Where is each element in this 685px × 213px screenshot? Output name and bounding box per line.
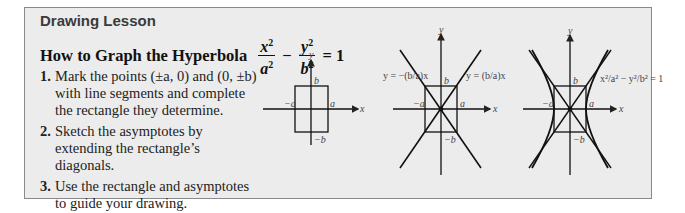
fig1-b-label: b (314, 75, 319, 86)
fig3-y-label: y (567, 25, 573, 36)
fig2-b-label: b (444, 75, 449, 86)
figure-hyperbola (523, 35, 616, 175)
fig2-x-label: x (492, 103, 498, 114)
fig3-a-label: a (589, 98, 594, 109)
fig2-neg-a-label: −a (413, 98, 425, 109)
graph-figures: y x b −b −a a y x b −b −a a y = −(b/a)x … (0, 0, 685, 213)
fig1-x-label: x (359, 103, 365, 114)
fig3-x-label: x (618, 103, 624, 114)
fig1-neg-b-label: −b (314, 134, 326, 145)
figure-asymptotes (393, 34, 490, 175)
fig1-neg-a-label: −a (284, 98, 296, 109)
asymptote-positive-label: y = (b/a)x (466, 70, 506, 82)
fig3-neg-a-label: −a (542, 98, 554, 109)
hyperbola-equation-label: x²/a² − y²/b² = 1 (600, 73, 663, 84)
fig2-neg-b-label: −b (444, 134, 456, 145)
fig2-y-label: y (438, 24, 444, 35)
figure-rectangle (263, 60, 358, 145)
fig1-y-label: y (308, 49, 314, 60)
asymptote-negative-label: y = −(b/a)x (383, 70, 428, 82)
fig3-neg-b-label: −b (573, 134, 585, 145)
fig2-a-label: a (460, 98, 465, 109)
fig3-b-label: b (573, 75, 578, 86)
fig1-a-label: a (330, 98, 335, 109)
